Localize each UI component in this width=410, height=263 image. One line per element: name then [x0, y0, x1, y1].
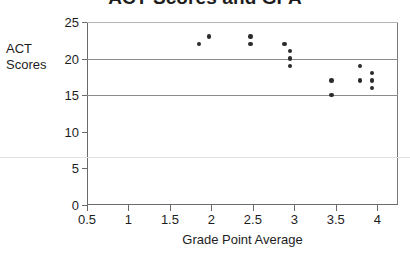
- y-axis-title-line-1: ACT: [6, 41, 68, 57]
- gridline-15: [87, 95, 398, 96]
- y-axis-tick-20: [82, 59, 87, 60]
- y-axis-label-0: 0: [72, 198, 79, 213]
- data-point: [282, 42, 286, 46]
- x-axis-tick-4: [377, 205, 378, 211]
- data-point: [248, 42, 252, 46]
- y-axis-title-line-2: Scores: [6, 57, 68, 73]
- chart-title: ACT Scores and GPA: [0, 0, 410, 9]
- x-axis-tick-2: [211, 205, 212, 211]
- y-axis-label-10: 10: [65, 124, 79, 139]
- x-axis-label-3.5: 3.5: [327, 212, 345, 227]
- y-axis-label-20: 20: [65, 51, 79, 66]
- x-axis-title: Grade Point Average: [87, 232, 398, 247]
- y-axis-tick-5: [82, 168, 87, 169]
- y-axis-tick-15: [82, 95, 87, 96]
- data-point: [248, 34, 252, 38]
- y-axis-tick-10: [82, 132, 87, 133]
- data-point: [207, 34, 211, 38]
- y-axis-tick-25: [82, 22, 87, 23]
- x-axis-label-3: 3: [291, 212, 298, 227]
- x-axis-tick-1.5: [170, 205, 171, 211]
- gridline-20: [87, 59, 398, 60]
- x-axis-label-2: 2: [208, 212, 215, 227]
- x-axis-tick-0.5: [87, 205, 88, 211]
- data-point: [329, 78, 333, 82]
- x-axis-label-1.5: 1.5: [161, 212, 179, 227]
- x-axis-tick-2.5: [253, 205, 254, 211]
- y-axis-label-5: 5: [72, 161, 79, 176]
- x-axis-label-0.5: 0.5: [78, 212, 96, 227]
- data-point: [358, 78, 362, 82]
- y-axis-title: ACT Scores: [6, 41, 68, 73]
- y-axis-label-15: 15: [65, 88, 79, 103]
- x-axis-label-2.5: 2.5: [244, 212, 262, 227]
- x-axis-label-4: 4: [374, 212, 381, 227]
- y-axis-label-25: 25: [65, 15, 79, 30]
- x-axis-label-1: 1: [125, 212, 132, 227]
- gridline-25: [87, 22, 398, 23]
- data-point: [358, 64, 362, 68]
- plot-frame: [87, 22, 398, 205]
- plot-area: 0510152025 0.511.522.533.54: [87, 22, 398, 205]
- x-axis-tick-1: [128, 205, 129, 211]
- x-axis-tick-3.5: [336, 205, 337, 211]
- scatter-chart: ACT Scores and GPA ACT Scores 0510152025…: [0, 0, 410, 263]
- x-axis-tick-3: [294, 205, 295, 211]
